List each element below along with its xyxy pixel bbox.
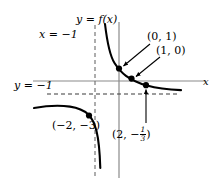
function-label: y = f(x) [76,14,117,25]
point-marker-1-0 [128,76,134,82]
point-marker-neg2-neg3 [86,112,92,118]
point-label-suffix: ) [146,128,150,141]
point-marker-2-neg-one-third [143,82,149,88]
point-marker-0-1 [116,65,122,71]
point-label-2-neg-one-third: (2, −13) [112,126,151,142]
point-label-1-0: (1, 0) [156,45,186,56]
point-label-neg2-neg3: (−2, −3) [52,120,100,131]
vertical-asymptote-label: x = −1 [39,29,78,40]
callout-arrow-1-0 [136,57,160,77]
horizontal-asymptote-label: y = −1 [14,80,53,91]
point-label-0-1: (0, 1) [147,31,177,42]
x-axis-label: x [203,77,209,87]
callout-arrow-0-1 [124,44,151,66]
point-label-prefix: (2, − [112,128,140,141]
function-graph-figure: y = f(x) x = −1 y = −1 x (0, 1) (1, 0) (… [0,0,217,180]
